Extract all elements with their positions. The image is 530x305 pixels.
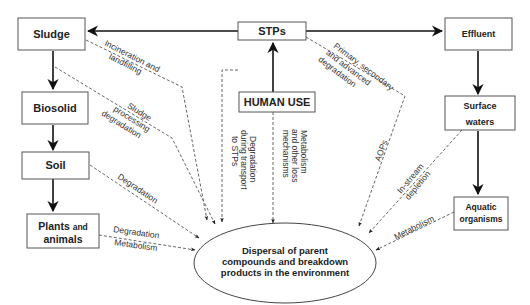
plants-label-and: and [73,222,88,232]
stps-label: STPs [258,25,286,37]
human-metabolism-line3: mechanisms [281,130,291,178]
surface-label-line1: Surface [463,101,496,111]
node-surface-waters: Surface waters [445,96,515,130]
edge-label-human-metabolism: Metabolism and other loss mechanisms [281,129,309,182]
node-effluent: Effluent [445,18,512,50]
node-sludge: Sludge [18,18,85,50]
aops-text: AOPs [372,138,389,162]
edge-label-soil-degradation: Degradation [116,171,160,205]
fate-diagram: Sludge STPs Effluent Biosolid HUMAN USE … [0,0,530,305]
node-aquatic-organisms: Aquatic organisms [454,197,508,230]
aquatic-label-line1: Aquatic [465,202,496,212]
node-biosolid: Biosolid [22,92,88,124]
human-use-label: HUMAN USE [244,96,311,108]
dispersal-line1: Dispersal of parent [242,245,329,256]
edge-label-aops: AOPs [372,138,389,162]
soil-degradation-text: Degradation [116,171,160,205]
plants-label-line1: Plants and [38,220,88,232]
edge-label-plants-metabolism: Metabolism [114,237,158,253]
effluent-label: Effluent [462,29,496,39]
node-soil: Soil [22,152,89,179]
edge-label-instream: In-stream depletion [395,161,433,201]
node-dispersal: Dispersal of parent compounds and breakd… [194,223,376,303]
plants-metabolism-text: Metabolism [114,237,158,253]
node-human-use: HUMAN USE [239,92,315,112]
edge-label-stp-degradation: Primary, secondary and advanced degradat… [317,38,397,109]
path-sludge-processing [55,67,215,224]
sludge-label: Sludge [33,28,70,40]
edge-label-transport: Degradation during transport to STPs [230,130,258,190]
aquatic-metabolism-text: Metabolism [392,213,435,242]
surface-label-line2: waters [465,117,495,127]
dispersal-line3: products in the environment [221,267,350,278]
node-stps: STPs [238,22,306,40]
soil-label: Soil [45,159,65,171]
edge-label-aquatic-metabolism: Metabolism [392,213,435,242]
plants-label-line2: animals [43,233,82,245]
aquatic-label-line2: organisms [460,214,503,224]
transport-line3: to STPs [230,136,240,166]
dispersal-line2: compounds and breakdown [222,256,348,267]
path-soil-degradation [90,165,199,238]
node-plants-animals: Plants and animals [27,214,99,248]
biosolid-label: Biosolid [33,102,76,114]
plants-label-bold: Plants [38,220,70,232]
edge-label-incineration: Incineration and landfilling [99,38,162,83]
edge-label-sludge-processing: Sludge processing degradation [100,91,158,143]
